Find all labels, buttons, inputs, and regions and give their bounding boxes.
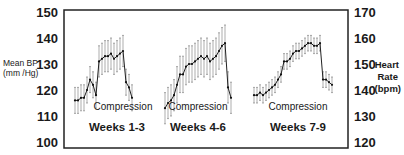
left-axis-unit: (mm /Hg) bbox=[3, 68, 39, 78]
data-point bbox=[256, 94, 258, 96]
data-point bbox=[83, 97, 85, 99]
label-weeks-1-3: Weeks 1-3 bbox=[89, 121, 145, 133]
left-tick: 130 bbox=[36, 57, 58, 72]
data-point bbox=[212, 58, 214, 60]
data-point bbox=[280, 73, 282, 75]
data-point bbox=[182, 73, 184, 75]
right-axis-ticks: 170 160 150 140 130 120 bbox=[354, 5, 376, 150]
right-tick: 150 bbox=[354, 57, 376, 72]
data-point bbox=[295, 50, 297, 52]
left-tick: 140 bbox=[36, 31, 58, 46]
data-point bbox=[262, 94, 264, 96]
data-point bbox=[230, 97, 232, 99]
data-point bbox=[107, 55, 109, 57]
data-point bbox=[218, 50, 220, 52]
data-point bbox=[110, 53, 112, 55]
data-point bbox=[301, 47, 303, 49]
data-point bbox=[274, 84, 276, 86]
data-point bbox=[92, 84, 94, 86]
data-point bbox=[200, 55, 202, 57]
data-point bbox=[283, 60, 285, 62]
data-point bbox=[265, 92, 267, 94]
data-point bbox=[125, 81, 127, 83]
data-point bbox=[179, 73, 181, 75]
data-point bbox=[80, 97, 82, 99]
data-point bbox=[268, 89, 270, 91]
data-point bbox=[173, 94, 175, 96]
right-axis-label: Heart bbox=[375, 59, 400, 70]
data-point bbox=[104, 55, 106, 57]
data-point bbox=[113, 58, 115, 60]
data-point bbox=[286, 60, 288, 62]
data-point bbox=[277, 79, 279, 81]
right-tick: 160 bbox=[354, 31, 376, 46]
data-point bbox=[298, 50, 300, 52]
data-point bbox=[188, 63, 190, 65]
left-axis-label: Mean BP bbox=[3, 58, 38, 68]
series-weeks-7-9 bbox=[253, 35, 333, 103]
data-point bbox=[101, 58, 103, 60]
data-point bbox=[206, 55, 208, 57]
data-point bbox=[331, 84, 333, 86]
data-point bbox=[325, 79, 327, 81]
left-tick: 100 bbox=[36, 135, 58, 150]
data-point bbox=[227, 86, 229, 88]
right-tick: 140 bbox=[354, 83, 376, 98]
data-point bbox=[310, 42, 312, 44]
chart: 150 140 130 120 110 100 Mean BP (mm /Hg)… bbox=[0, 0, 404, 155]
left-tick: 110 bbox=[37, 109, 58, 124]
right-tick: 170 bbox=[354, 5, 376, 20]
right-axis-label-2: Rate bbox=[377, 71, 398, 82]
data-point bbox=[322, 79, 324, 81]
annotation-compression-1: Compression bbox=[94, 101, 153, 112]
data-point bbox=[95, 94, 97, 96]
label-weeks-4-6: Weeks 4-6 bbox=[170, 121, 226, 133]
right-tick: 130 bbox=[354, 109, 376, 124]
data-point bbox=[164, 107, 166, 109]
data-point bbox=[203, 58, 205, 60]
left-tick: 150 bbox=[36, 5, 58, 20]
right-axis-unit: (bpm) bbox=[375, 83, 401, 94]
series-line bbox=[75, 51, 132, 100]
data-point bbox=[98, 60, 100, 62]
data-point bbox=[215, 55, 217, 57]
data-point bbox=[292, 53, 294, 55]
data-point bbox=[74, 99, 76, 101]
data-point bbox=[253, 94, 255, 96]
data-point bbox=[328, 81, 330, 83]
data-point bbox=[191, 63, 193, 65]
data-point bbox=[209, 60, 211, 62]
data-point bbox=[131, 97, 133, 99]
data-point bbox=[89, 79, 91, 81]
data-point bbox=[316, 45, 318, 47]
label-weeks-7-9: Weeks 7-9 bbox=[270, 121, 326, 133]
data-point bbox=[128, 86, 130, 88]
data-point bbox=[77, 99, 79, 101]
annotation-compression-3: Compression bbox=[269, 101, 328, 112]
data-point bbox=[224, 42, 226, 44]
data-point bbox=[119, 53, 121, 55]
data-point bbox=[307, 42, 309, 44]
data-point bbox=[289, 58, 291, 60]
data-point bbox=[271, 86, 273, 88]
data-point bbox=[194, 60, 196, 62]
right-tick: 120 bbox=[354, 135, 376, 150]
data-point bbox=[176, 84, 178, 86]
data-point bbox=[319, 42, 321, 44]
data-point bbox=[122, 50, 124, 52]
data-point bbox=[86, 89, 88, 91]
left-tick: 120 bbox=[36, 83, 58, 98]
annotation-compression-2: Compression bbox=[169, 101, 228, 112]
data-point bbox=[116, 55, 118, 57]
data-point bbox=[197, 58, 199, 60]
data-point bbox=[313, 45, 315, 47]
data-point bbox=[259, 92, 261, 94]
left-axis-ticks: 150 140 130 120 110 100 bbox=[36, 5, 58, 150]
data-point bbox=[185, 66, 187, 68]
data-point bbox=[304, 45, 306, 47]
data-point bbox=[221, 45, 223, 47]
